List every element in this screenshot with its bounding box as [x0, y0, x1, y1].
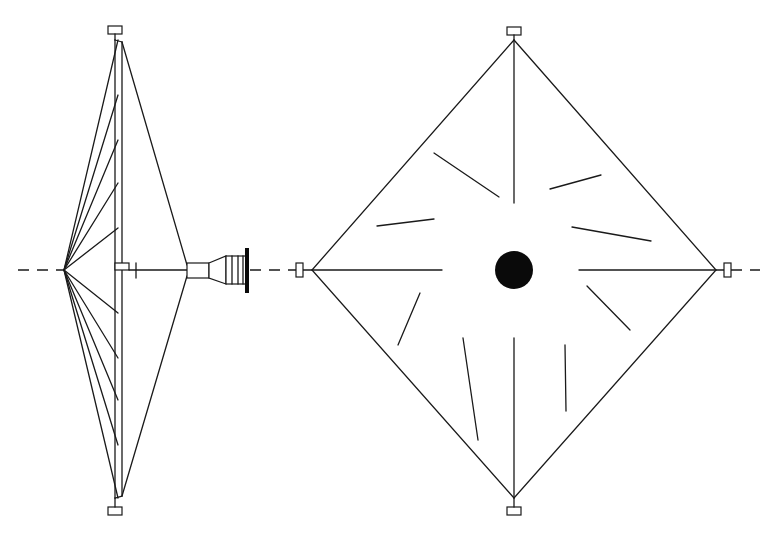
sail-vane	[398, 293, 420, 345]
rear-stays	[122, 42, 187, 496]
fan-rib	[64, 270, 118, 400]
front-view	[296, 27, 731, 515]
mast-top-tip-box	[108, 26, 122, 34]
engine-collar	[187, 263, 209, 278]
sail-vane	[434, 153, 499, 197]
side-view	[64, 26, 249, 515]
solar-sail-diagram	[0, 0, 773, 542]
fan-ribs	[64, 40, 118, 498]
sail-vane	[377, 219, 434, 226]
engine-end-plate	[245, 248, 249, 293]
fan-rib	[64, 40, 118, 270]
mast-bottom-tip-box	[108, 507, 122, 515]
fan-rib	[64, 270, 118, 498]
fan-rib	[64, 270, 118, 445]
sail-top-tip-box	[507, 27, 521, 35]
sail-right-tip-box	[724, 263, 731, 277]
central-hub	[495, 251, 533, 289]
diagram-canvas	[0, 0, 773, 542]
fan-rib	[64, 270, 118, 358]
hub-bracket	[115, 263, 187, 278]
fan-rib	[64, 183, 118, 270]
fan-rib	[64, 140, 118, 270]
sail-vane	[463, 338, 478, 440]
sail-vane	[565, 345, 566, 411]
sail-left-tip-box	[296, 263, 303, 277]
sail-bottom-tip-box	[507, 507, 521, 515]
engine-module	[187, 248, 249, 293]
sail-vane	[550, 175, 601, 189]
engine-cone	[209, 256, 226, 284]
sail-vane	[587, 286, 630, 330]
fan-rib	[64, 95, 118, 270]
sail-vane	[572, 227, 651, 241]
